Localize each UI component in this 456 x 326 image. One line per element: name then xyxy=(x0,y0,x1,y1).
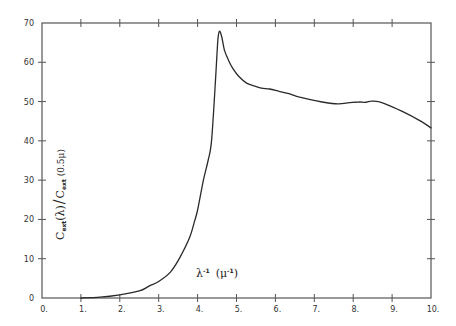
chart: 0.1.2.3.4.5.6.7.8.9.10. 010203040506070 … xyxy=(0,0,456,326)
extinction-curve xyxy=(81,31,431,298)
x-tick-label: 5. xyxy=(235,305,243,314)
x-tick-label: 4. xyxy=(196,305,204,314)
x-tick-label: 1. xyxy=(79,305,87,314)
y-tick-label: 10 xyxy=(24,255,34,264)
y-tick-label: 50 xyxy=(24,98,34,107)
x-tick-label: 10. xyxy=(427,305,440,314)
y-tick-label: 0 xyxy=(29,294,34,303)
x-tick-label: 6. xyxy=(274,305,282,314)
y-tick-label: 30 xyxy=(24,176,34,185)
y-axis-label: Cext(λ)/Cext(0.5μ) xyxy=(51,149,67,240)
x-tick-label: 2. xyxy=(118,305,126,314)
x-tick-label: 3. xyxy=(157,305,165,314)
y-tick-label: 20 xyxy=(24,215,34,224)
x-tick-label: 7. xyxy=(312,305,320,314)
x-tick-label: 8. xyxy=(351,305,359,314)
x-axis-ticks: 0.1.2.3.4.5.6.7.8.9.10. xyxy=(40,19,439,314)
x-tick-label: 9. xyxy=(390,305,398,314)
x-axis-label: λ-1(μ-1) xyxy=(196,267,238,280)
y-tick-label: 70 xyxy=(24,19,34,28)
y-tick-label: 40 xyxy=(24,137,34,146)
y-tick-label: 60 xyxy=(24,58,34,67)
x-tick-label: 0. xyxy=(40,305,48,314)
plot-frame xyxy=(42,23,431,298)
